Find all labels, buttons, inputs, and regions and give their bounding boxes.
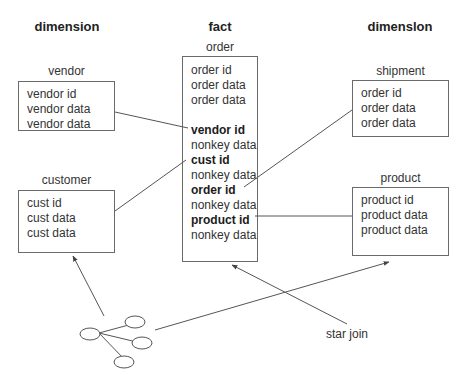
vendor-link-line bbox=[115, 112, 188, 128]
network-to-customer-arrow bbox=[73, 256, 104, 316]
network-to-product-arrow bbox=[155, 262, 389, 330]
star-join-arrow bbox=[232, 265, 347, 324]
shipment-link-line bbox=[244, 110, 352, 187]
customer-link-line bbox=[115, 160, 186, 211]
network-graph-icon bbox=[80, 316, 152, 368]
connector-lines bbox=[0, 0, 465, 382]
